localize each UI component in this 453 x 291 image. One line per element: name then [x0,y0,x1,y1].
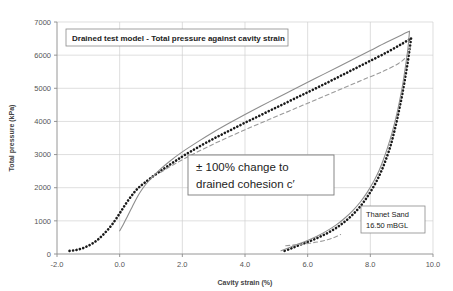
x-tick-label: -2.0 [51,260,64,269]
y-tick-label: 4000 [34,117,51,126]
y-axis-title: Total pressure (kPa) [8,105,16,172]
y-tick-label: 7000 [34,18,51,27]
x-tick-label: 6.0 [302,260,312,269]
corner-box-line1: Thanet Sand [366,210,409,219]
chart-svg: 01000200030004000500060007000-2.00.02.04… [0,0,453,291]
y-tick-label: 0 [47,250,51,259]
x-tick-label: 2.0 [177,260,187,269]
chart-figure: 01000200030004000500060007000-2.00.02.04… [0,0,453,291]
x-tick-label: 10.0 [426,260,441,269]
x-tick-label: 8.0 [365,260,375,269]
y-tick-label: 2000 [34,183,51,192]
y-tick-label: 5000 [34,84,51,93]
y-tick-label: 1000 [34,217,51,226]
y-tick-label: 6000 [34,51,51,60]
x-tick-label: 0.0 [114,260,124,269]
x-axis-title: Cavity strain (%) [218,279,273,287]
y-tick-label: 3000 [34,150,51,159]
note-box-line1: ± 100% change to [196,161,289,173]
note-box-line2: drained cohesion c′ [196,178,295,190]
x-tick-label: 4.0 [240,260,250,269]
title-box-text: Drained test model - Total pressure agai… [72,34,285,43]
corner-box-line2: 16.50 mBGL [366,221,408,230]
